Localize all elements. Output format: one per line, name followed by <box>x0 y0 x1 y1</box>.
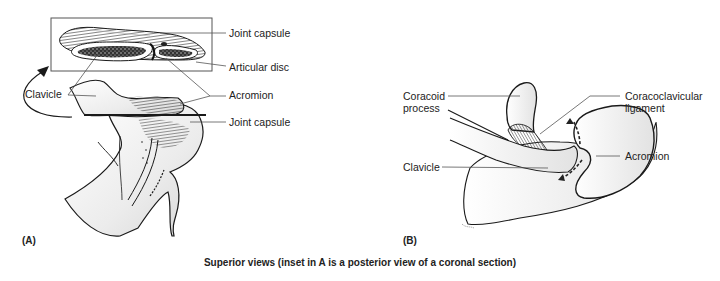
label-acromion-a: Acromion <box>229 89 273 101</box>
panel-label-b: (B) <box>403 235 417 246</box>
label-clavicle-b: Clavicle <box>403 161 440 173</box>
label-coracoid-line1: Coracoid <box>403 90 445 102</box>
label-coracoclavicular-line2: ligament <box>625 102 665 114</box>
panel-label-a: (A) <box>22 235 36 246</box>
label-acromion-b: Acromion <box>625 150 669 162</box>
label-coracoclavicular-line1: Coracoclavicular <box>625 90 703 102</box>
label-articular-disc: Articular disc <box>229 61 289 73</box>
figure-caption: Superior views (inset in A is a posterio… <box>0 257 720 268</box>
label-coracoid-line2: process <box>403 102 440 114</box>
label-joint-capsule-top: Joint capsule <box>229 27 290 39</box>
panel-a-drawing <box>24 18 226 236</box>
anatomy-illustration <box>0 0 720 281</box>
label-clavicle-a: Clavicle <box>25 88 62 100</box>
label-joint-capsule-bottom: Joint capsule <box>229 116 290 128</box>
